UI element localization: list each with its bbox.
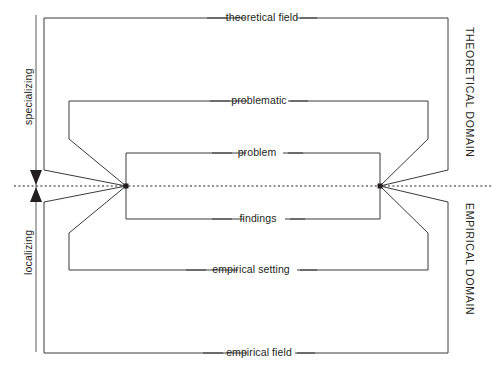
label-empirical-field: empirical field (226, 346, 292, 358)
label-localizing: localizing (22, 230, 34, 275)
shape-problematic (69, 101, 247, 186)
shape-problematic-right (290, 101, 428, 186)
lens-diagram (0, 0, 492, 372)
label-theoretical-field: theoretical field (226, 11, 298, 23)
label-empirical-domain: EMPIRICAL DOMAIN (464, 203, 476, 315)
shape-empirical-setting-right (300, 186, 428, 270)
label-specializing: specializing (22, 68, 34, 125)
shape-problem-right (288, 153, 380, 186)
specializing-arrowhead-icon (30, 170, 42, 185)
shape-problem (126, 153, 246, 186)
shape-findings-right (290, 186, 380, 219)
label-problematic: problematic (231, 94, 286, 106)
localizing-arrowhead-icon (30, 187, 42, 202)
shape-empirical-setting (69, 186, 238, 270)
shape-findings (126, 186, 244, 219)
label-problem: problem (238, 146, 277, 158)
shape-theoretical-field (44, 18, 245, 186)
label-empirical-setting: empirical setting (212, 263, 290, 275)
label-theoretical-domain: THEORETICAL DOMAIN (464, 27, 476, 158)
shape-theoretical-field-right (300, 18, 448, 186)
label-findings: findings (240, 212, 277, 224)
